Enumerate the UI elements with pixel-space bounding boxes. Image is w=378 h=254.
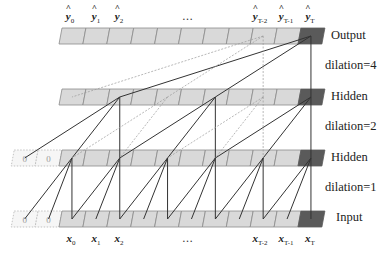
cell: [131, 150, 158, 166]
output-symbol-y0: y0: [66, 10, 74, 25]
inactive-connection: [72, 36, 263, 97]
active-connection: [168, 158, 216, 219]
dilation-1-label: dilation=1: [325, 180, 377, 195]
cell: [131, 89, 158, 105]
output-layer: [59, 28, 325, 44]
input-ellipsis: …: [182, 232, 194, 245]
output-layer-label: Output: [331, 28, 366, 43]
output-ellipsis: …: [182, 10, 194, 23]
active-connection: [239, 158, 263, 219]
active-connection: [25, 158, 72, 219]
active-connection: [72, 158, 120, 219]
cell: [83, 89, 110, 105]
active-connection: [168, 97, 216, 158]
output-symbol-yT-2: yT-2: [253, 10, 267, 25]
cell: [107, 28, 134, 44]
input-symbol-x0: x0: [67, 232, 76, 247]
cell: [274, 150, 301, 166]
active-connection: [144, 158, 168, 219]
active-connection: [215, 158, 263, 219]
input-symbol-xT: xT: [305, 232, 315, 247]
active-connection: [287, 158, 311, 219]
padding-zero: 0: [46, 215, 51, 225]
padding-zero: 0: [22, 154, 27, 164]
cell: [83, 150, 110, 166]
input-symbol-x1: x1: [92, 232, 101, 247]
active-connection: [49, 158, 72, 219]
cell: [131, 28, 158, 44]
output-symbol-y2: y2: [115, 10, 123, 25]
active-connection: [96, 158, 120, 219]
active-connection: [120, 97, 216, 158]
cell: [274, 28, 301, 44]
cell: [59, 28, 86, 44]
hidden-layer-1-label: Hidden: [331, 150, 368, 165]
active-connection: [263, 158, 311, 219]
cell: [226, 28, 253, 44]
input-symbol-xT-2: xT-2: [253, 232, 268, 247]
cell: [179, 89, 206, 105]
inactive-connection: [215, 97, 263, 158]
hidden2-layer: [59, 89, 325, 105]
output-symbol-y1: y1: [92, 10, 100, 25]
output-symbol-yT-1: yT-1: [279, 10, 293, 25]
active-connection: [191, 158, 215, 219]
cell: [226, 89, 253, 105]
active-connection: [263, 97, 311, 158]
cell: [202, 28, 229, 44]
cell: [179, 28, 206, 44]
cell: [274, 89, 301, 105]
cell: [83, 28, 110, 44]
padding-zero: 0: [46, 154, 51, 164]
input-layer-label: Input: [336, 210, 362, 225]
input-symbol-xT-1: xT-1: [279, 232, 294, 247]
inactive-connection: [120, 97, 168, 158]
cell: [179, 150, 206, 166]
active-connection: [215, 36, 311, 97]
output-symbol-yT: yT: [305, 10, 314, 25]
inactive-connection: [168, 36, 264, 97]
dilated-convolution-diagram: 0000: [0, 0, 378, 254]
cell: [155, 28, 182, 44]
dilation-4-label: dilation=4: [325, 58, 377, 73]
active-connection: [72, 97, 120, 158]
active-connection: [215, 97, 311, 158]
hidden-layer-2-label: Hidden: [331, 89, 368, 104]
active-connection: [25, 97, 120, 158]
active-connection: [120, 158, 168, 219]
dilation-2-label: dilation=2: [325, 119, 377, 134]
cell: [226, 150, 253, 166]
input-symbol-x2: x2: [115, 232, 124, 247]
